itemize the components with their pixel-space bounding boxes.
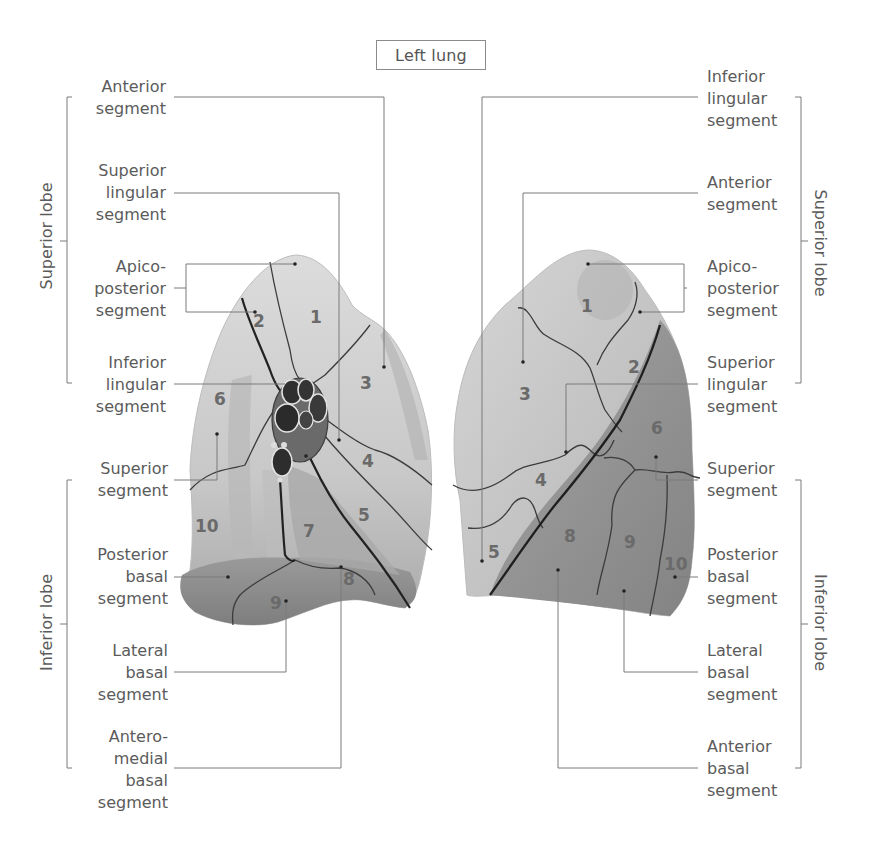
label-superior-segment-left: Superior segment [60,458,168,502]
left-inferior-lobe-label: Inferior lobe [37,573,56,673]
svg-text:2: 2 [253,311,265,331]
label-posterior-basal-segment-right: Posterior basal segment [707,544,797,610]
label-anterior-segment-left: Anterior segment [60,76,166,120]
label-superior-segment-right: Superior segment [707,458,797,502]
label-lateral-basal-segment-left: Lateral basal segment [60,640,168,706]
label-apicoposterior-segment-left: Apico- posterior segment [60,256,166,322]
svg-text:2: 2 [628,357,640,377]
label-superior-lingular-segment-left: Superior lingular segment [60,160,166,226]
label-anterior-segment-right: Anterior segment [707,172,797,216]
label-inferior-lingular-segment-right: Inferior lingular segment [707,66,797,132]
svg-text:9: 9 [624,532,636,552]
right-superior-lobe-label: Superior lobe [811,190,830,290]
label-inferior-lingular-segment-left: Inferior lingular segment [60,352,166,418]
label-anteromedial-basal-segment-left: Antero- medial basal segment [60,726,168,814]
svg-text:1: 1 [581,296,593,316]
label-superior-lingular-segment-right: Superior lingular segment [707,352,797,418]
svg-text:4: 4 [362,451,374,471]
svg-text:6: 6 [214,389,226,409]
label-lateral-basal-segment-right: Lateral basal segment [707,640,797,706]
leader-lines [60,97,808,768]
left-superior-lobe-label: Superior lobe [37,190,56,290]
svg-text:9: 9 [270,593,282,613]
svg-text:5: 5 [358,505,370,525]
label-posterior-basal-segment-left: Posterior basal segment [60,544,168,610]
svg-text:10: 10 [664,554,688,574]
svg-text:7: 7 [303,521,315,541]
right-inferior-lobe-label: Inferior lobe [811,573,830,673]
medial-view-lung: 1 2 3 4 5 6 7 8 9 10 [180,255,432,625]
svg-text:3: 3 [360,373,372,393]
svg-text:8: 8 [343,569,355,589]
svg-text:1: 1 [310,307,322,327]
svg-text:3: 3 [519,384,531,404]
svg-text:8: 8 [564,526,576,546]
svg-text:5: 5 [488,542,500,562]
svg-text:4: 4 [535,470,547,490]
svg-text:6: 6 [651,418,663,438]
svg-text:10: 10 [195,516,219,536]
costal-view-lung: 1 2 3 4 5 6 8 9 10 [453,250,700,616]
left-lung-segments-diagram: Left lung [0,0,869,848]
label-anterior-basal-segment-right: Anterior basal segment [707,736,797,802]
label-apicoposterior-segment-right: Apico- posterior segment [707,256,797,322]
